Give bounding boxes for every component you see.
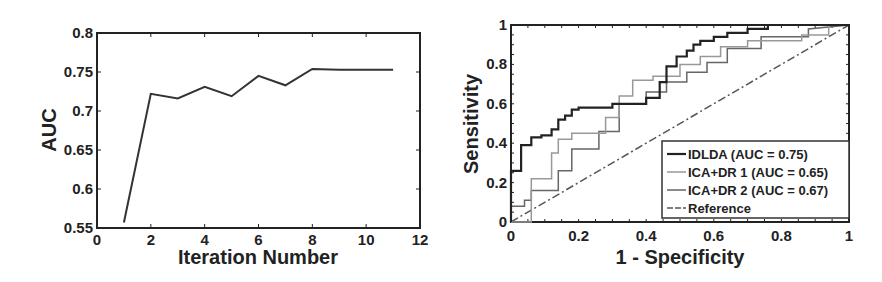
y-tick-label: 0.65 <box>64 141 93 158</box>
x-tick-label: 12 <box>412 231 429 248</box>
x-tick-label: 0 <box>93 231 101 248</box>
x-tick-label: 0.8 <box>771 227 792 244</box>
x-tick-label: 10 <box>358 231 375 248</box>
left-axes-box <box>97 33 420 228</box>
legend-ica-dr2: ICA+DR 2 (AUC = 0.67) <box>688 183 828 198</box>
x-tick-label: 0.4 <box>636 227 658 244</box>
x-tick-label: 0.2 <box>568 227 589 244</box>
x-tick-label: 0 <box>507 227 515 244</box>
y-tick-label: 0 <box>499 213 507 230</box>
legend-reference: Reference <box>688 201 751 216</box>
figure: 0246810120.550.60.650.70.750.8 Iteration… <box>0 0 882 282</box>
y-tick-label: 0.2 <box>486 174 507 191</box>
y-tick-label: 0.55 <box>64 219 93 236</box>
auc-iteration-chart: 0246810120.550.60.650.70.750.8 Iteration… <box>38 24 428 268</box>
y-tick-label: 0.8 <box>486 55 507 72</box>
y-tick-label: 0.8 <box>72 24 93 41</box>
legend-ica-dr1: ICA+DR 1 (AUC = 0.65) <box>688 165 828 180</box>
y-tick-label: 0.4 <box>486 134 508 151</box>
x-tick-label: 1 <box>845 227 853 244</box>
left-ylabel: AUC <box>38 108 60 151</box>
y-tick-label: 0.7 <box>72 102 93 119</box>
y-tick-label: 1 <box>499 16 507 33</box>
x-tick-label: 0.6 <box>703 227 724 244</box>
y-tick-label: 0.6 <box>486 95 507 112</box>
legend-idlda: IDLDA (AUC = 0.75) <box>688 147 808 162</box>
y-tick-label: 0.6 <box>72 180 93 197</box>
right-xlabel: 1 - Specificity <box>616 246 746 268</box>
right-ylabel: Sensitivity <box>460 73 482 174</box>
y-tick-label: 0.75 <box>64 63 93 80</box>
roc-chart: 00.20.40.60.8100.20.40.60.81 IDLDA (AUC … <box>460 16 853 268</box>
legend: IDLDA (AUC = 0.75) ICA+DR 1 (AUC = 0.65)… <box>662 141 849 218</box>
left-xlabel: Iteration Number <box>178 246 338 268</box>
x-tick-label: 2 <box>147 231 155 248</box>
